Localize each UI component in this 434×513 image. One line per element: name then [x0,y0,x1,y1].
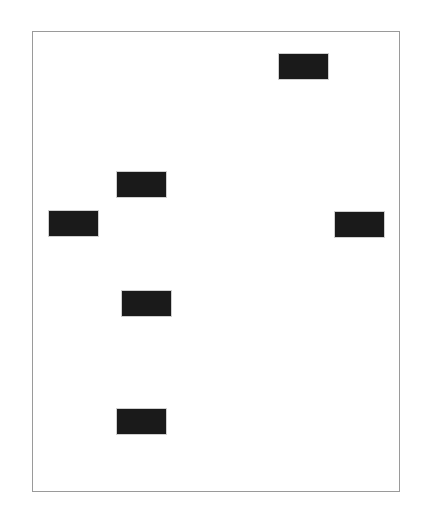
redacted-block-1 [279,54,328,79]
redacted-block-6 [117,409,166,434]
redacted-block-4 [335,212,384,237]
redacted-block-2 [117,172,166,197]
redacted-block-3 [49,211,98,236]
diagram-frame [32,31,400,492]
redacted-block-5 [122,291,171,316]
